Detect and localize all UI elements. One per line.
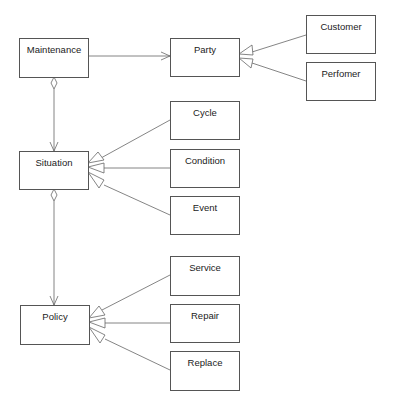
generalization-line-customer [252, 35, 306, 52]
class-box-service: Service [170, 256, 240, 296]
class-label: Condition [171, 155, 239, 166]
generalization-triangle-icon [89, 327, 105, 343]
generalization-triangle-icon [239, 58, 253, 68]
generalization-triangle-icon [239, 45, 253, 55]
class-label: Service [171, 262, 239, 273]
generalization-triangle-icon [88, 152, 104, 163]
class-box-condition: Condition [170, 149, 240, 188]
generalization-line-perfomer [252, 63, 306, 81]
generalization-line-service [102, 275, 170, 310]
generalization-triangle-icon [89, 306, 105, 318]
class-box-perfomer: Perfomer [306, 62, 376, 101]
class-label: Party [171, 44, 239, 55]
class-label: Maintenance [20, 44, 88, 55]
aggregation-diamond-icon [51, 77, 57, 89]
class-box-situation: Situation [19, 151, 89, 190]
class-label: Customer [307, 21, 375, 32]
class-box-event: Event [170, 196, 240, 235]
generalization-line-cycle [101, 120, 170, 158]
class-label: Replace [171, 357, 239, 368]
generalization-triangle-icon [88, 172, 104, 188]
generalization-line-replace [105, 339, 170, 370]
class-label: Cycle [171, 107, 239, 118]
generalization-line-event [104, 185, 170, 215]
class-box-repair: Repair [170, 304, 240, 343]
class-label: Event [171, 202, 239, 213]
class-box-policy: Policy [20, 305, 90, 345]
class-box-replace: Replace [170, 351, 240, 391]
class-label: Policy [21, 311, 89, 322]
class-label: Situation [20, 157, 88, 168]
generalization-triangle-icon [89, 318, 105, 328]
aggregation-diamond-icon [51, 189, 57, 201]
generalization-triangle-icon [88, 163, 104, 173]
class-box-maintenance: Maintenance [19, 38, 89, 78]
class-label: Repair [171, 310, 239, 321]
class-label: Perfomer [307, 68, 375, 79]
class-box-party: Party [170, 38, 240, 77]
class-box-customer: Customer [306, 15, 376, 54]
class-box-cycle: Cycle [170, 101, 240, 140]
